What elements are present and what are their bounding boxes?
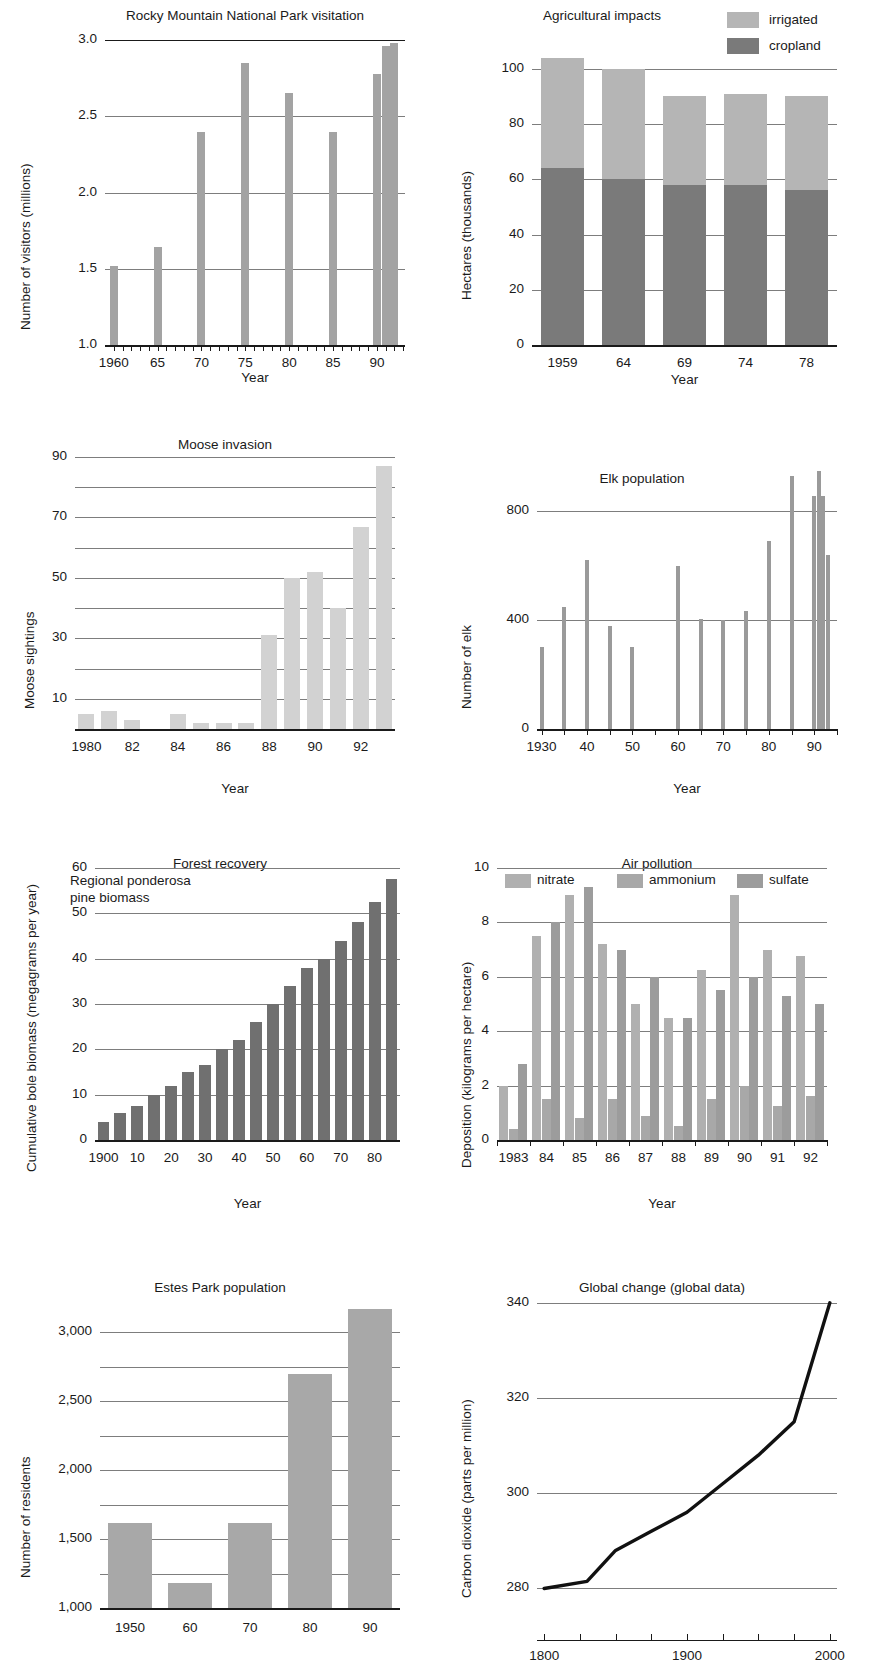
bar-20 <box>165 1086 177 1140</box>
legend-swatch-nitrate <box>505 874 531 888</box>
axis-tick <box>544 1634 545 1640</box>
axis-tick <box>662 1140 663 1146</box>
bar-15 <box>148 1095 160 1140</box>
axis-tick <box>201 345 202 351</box>
bar-91 <box>330 608 346 729</box>
gridline <box>95 868 400 869</box>
axis-tick <box>723 729 724 735</box>
axis-tick <box>827 1140 828 1146</box>
gridline <box>75 517 395 518</box>
axis-tick <box>769 729 770 735</box>
axis-tick <box>324 345 325 351</box>
bar-irrigated-69 <box>663 96 707 184</box>
x-axis-tick-label: 1900 <box>657 1648 717 1663</box>
axis-tick <box>728 1140 729 1146</box>
bar-87 <box>238 723 254 729</box>
axis-tick <box>587 729 588 735</box>
y-axis-tick-label: 2,000 <box>22 1461 92 1476</box>
bar-cropland-74 <box>724 185 768 345</box>
y-axis-tick-label: 2 <box>437 1077 489 1092</box>
plot-area: 020406080100195964697478 <box>532 55 837 345</box>
bar-sulfate-84 <box>551 922 560 1140</box>
panel-elk-population: Elk population Number of elk 04008001930… <box>437 419 874 838</box>
y-axis-title: Number of elk <box>459 625 474 709</box>
y-axis-tick-label: 280 <box>459 1579 529 1594</box>
bar-45 <box>608 626 612 729</box>
x-axis-title: Year <box>497 1196 827 1211</box>
bar-88 <box>261 635 277 729</box>
bar-sulfate-85 <box>584 887 593 1140</box>
bar-nitrate-84 <box>532 936 541 1140</box>
axis-tick <box>632 729 633 735</box>
bar-91 <box>382 46 390 345</box>
bar-75 <box>352 922 364 1140</box>
axis-tick <box>289 345 290 351</box>
bar-84 <box>170 714 186 729</box>
legend-swatch-sulfate <box>737 874 763 888</box>
bar-65 <box>154 247 162 345</box>
axis-tick <box>403 345 404 351</box>
y-axis-tick-label: 6 <box>437 968 489 983</box>
y-axis-tick-label: 4 <box>437 1022 489 1037</box>
y-axis-tick-label: 20 <box>17 1040 87 1055</box>
y-axis-tick-label: 20 <box>454 281 524 296</box>
y-axis-tick-label: 50 <box>0 569 67 584</box>
axis-tick <box>210 345 211 351</box>
bar-ammonium-91 <box>773 1106 782 1140</box>
axis-line <box>95 1140 400 1142</box>
x-axis-line <box>537 1640 837 1641</box>
plot-area: 010203040506019001020304050607080 <box>95 868 400 1140</box>
bar-90 <box>373 74 381 345</box>
legend-label-irrigated: irrigated <box>769 12 818 27</box>
bar-sulfate-86 <box>617 950 626 1140</box>
axis-tick <box>746 729 747 735</box>
axis-tick <box>307 345 308 351</box>
y-axis-tick-label: 10 <box>17 1086 87 1101</box>
y-axis-tick-label: 80 <box>454 115 524 130</box>
y-axis-tick-label: 300 <box>459 1484 529 1499</box>
panel-air-pollution: Air pollution Deposition (kilograms per … <box>437 838 874 1258</box>
bar-10 <box>131 1106 143 1140</box>
axis-tick <box>114 345 115 351</box>
y-axis-tick-label: 320 <box>459 1389 529 1404</box>
legend-swatch-irrigated <box>727 12 759 28</box>
axis-tick <box>263 345 264 351</box>
y-axis-tick-label: 10 <box>0 690 67 705</box>
panel-agricultural-impacts: Agricultural impacts Hectares (thousands… <box>437 0 874 419</box>
bar-55 <box>284 986 296 1140</box>
bar-sulfate-87 <box>650 977 659 1140</box>
axis-tick <box>687 1634 688 1640</box>
plot-area: 1.01.52.02.53.01960657075808590 <box>105 40 405 345</box>
gridline <box>75 638 395 639</box>
panel-rmnp-visitation: Rocky Mountain National Park visitation … <box>0 0 437 419</box>
y-axis-tick-label: 10 <box>437 859 489 874</box>
y-axis-tick-label: 0 <box>17 1131 87 1146</box>
chart-title: Moose invasion <box>60 437 390 452</box>
axis-tick <box>342 345 343 351</box>
axis-tick <box>333 345 334 351</box>
axis-tick <box>184 345 185 351</box>
bar-82 <box>124 720 140 729</box>
axis-tick <box>175 345 176 351</box>
y-axis-tick-label: 40 <box>454 226 524 241</box>
panel-estes-park-population: Estes Park population Number of resident… <box>0 1258 437 1678</box>
legend-label-cropland: cropland <box>769 38 821 53</box>
bar-92 <box>390 43 398 345</box>
bar-85 <box>386 879 398 1140</box>
panel-moose-invasion: Moose invasion Moose sightings 103050709… <box>0 419 437 838</box>
y-axis-tick-label: 0 <box>454 336 524 351</box>
figure-panel-grid: Rocky Mountain National Park visitation … <box>0 0 874 1678</box>
bar-92 <box>821 496 825 729</box>
x-axis-tick-label: 70 <box>220 1620 280 1635</box>
bar-60 <box>168 1583 211 1608</box>
axis-tick <box>629 1140 630 1146</box>
bar-85 <box>329 132 337 346</box>
axis-tick <box>497 1140 498 1146</box>
y-axis-tick-label: 1.0 <box>27 336 97 351</box>
bar-ammonium-88 <box>674 1126 683 1140</box>
x-axis-tick-label: 1959 <box>533 355 593 370</box>
x-axis-tick-label: 64 <box>594 355 654 370</box>
gridline <box>497 977 827 978</box>
x-axis-tick-label: 90 <box>340 1620 400 1635</box>
x-axis-tick-label: 2000 <box>800 1648 860 1663</box>
